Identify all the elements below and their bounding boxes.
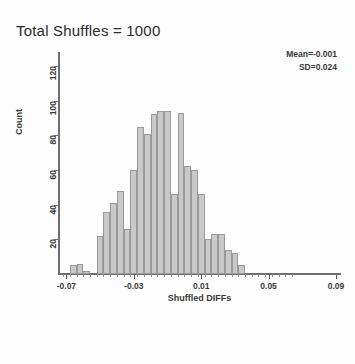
x-axis-minor-tick — [70, 274, 71, 277]
x-axis-minor-tick — [184, 274, 185, 277]
y-axis-tick-label: 60 — [48, 170, 58, 179]
x-axis-tick-label: -0.03 — [124, 281, 143, 291]
y-axis-tick-label: 80 — [48, 135, 58, 144]
histogram-bar — [164, 111, 171, 274]
histogram-bar — [124, 229, 131, 274]
x-axis-minor-tick — [205, 274, 206, 277]
x-axis-tick — [336, 274, 337, 279]
x-axis-minor-tick — [218, 274, 219, 277]
x-axis-tick — [269, 274, 270, 279]
x-axis-minor-tick — [130, 274, 131, 277]
histogram-bar — [110, 203, 117, 274]
x-axis-minor-tick — [279, 274, 280, 277]
x-axis-minor-tick — [198, 274, 199, 277]
histogram-bar — [117, 191, 124, 274]
x-axis-minor-tick — [83, 274, 84, 277]
histogram-bar — [205, 239, 212, 274]
histogram-figure: Total Shuffles = 1000 Mean=-0.001 SD=0.0… — [0, 0, 355, 364]
histogram-bar — [137, 127, 144, 274]
x-axis-minor-tick — [265, 274, 266, 277]
x-axis-minor-tick — [63, 274, 64, 277]
x-axis-minor-tick — [245, 274, 246, 277]
y-axis-title: Count — [14, 109, 24, 135]
x-axis-title: Shuffled DIFFs — [58, 293, 341, 303]
x-axis-minor-tick — [252, 274, 253, 277]
x-axis-minor-tick — [164, 274, 165, 277]
x-axis-tick-label: 0.09 — [328, 281, 345, 291]
x-axis-minor-tick — [97, 274, 98, 277]
x-axis-minor-tick — [211, 274, 212, 277]
y-axis-tick-label: 100 — [48, 101, 58, 115]
histogram-bar — [130, 170, 137, 274]
page-title: Total Shuffles = 1000 — [16, 22, 160, 39]
histogram-bar — [184, 166, 191, 274]
x-axis-minor-tick — [137, 274, 138, 277]
histogram-bar — [171, 194, 178, 274]
x-axis-minor-tick — [117, 274, 118, 277]
histogram-bar — [97, 236, 104, 274]
x-axis-tick-label: 0.01 — [193, 281, 210, 291]
histogram-bar — [225, 250, 232, 274]
histogram-bar — [198, 194, 205, 274]
x-axis-tick — [66, 274, 67, 279]
histogram-bar — [232, 253, 239, 274]
histogram-bar — [178, 113, 185, 274]
y-axis-tick-label: 20 — [48, 239, 58, 248]
x-axis-tick-label: 0.05 — [260, 281, 277, 291]
histogram-bar — [238, 265, 245, 274]
x-axis-minor-tick — [103, 274, 104, 277]
x-axis-minor-tick — [178, 274, 179, 277]
x-axis-tick-label: -0.07 — [57, 281, 76, 291]
plot-area: 20406080100120 -0.07-0.030.010.050.09 — [58, 52, 341, 274]
histogram-bar — [83, 271, 90, 274]
x-axis-minor-tick — [124, 274, 125, 277]
x-axis-minor-tick — [77, 274, 78, 277]
x-axis-minor-tick — [225, 274, 226, 277]
histogram-bar — [77, 264, 84, 274]
x-axis-minor-tick — [171, 274, 172, 277]
bar-series — [58, 52, 341, 274]
histogram-bar — [211, 234, 218, 274]
x-axis-minor-tick — [90, 274, 91, 277]
x-axis-minor-tick — [272, 274, 273, 277]
x-axis-tick — [201, 274, 202, 279]
histogram-bar — [218, 234, 225, 274]
x-axis-minor-tick — [191, 274, 192, 277]
x-axis-minor-tick — [157, 274, 158, 277]
histogram-bar — [70, 265, 77, 274]
x-axis-minor-tick — [285, 274, 286, 277]
y-axis-tick-label: 40 — [48, 205, 58, 214]
y-axis-tick-label: 120 — [48, 66, 58, 80]
x-axis-minor-tick — [232, 274, 233, 277]
x-axis-minor-tick — [292, 274, 293, 277]
x-axis-minor-tick — [110, 274, 111, 277]
x-axis-minor-tick — [238, 274, 239, 277]
x-axis-minor-tick — [144, 274, 145, 277]
histogram-bar — [144, 134, 151, 274]
histogram-bar — [157, 111, 164, 274]
x-axis-tick — [134, 274, 135, 279]
histogram-bar — [151, 114, 158, 274]
x-axis-minor-tick — [258, 274, 259, 277]
x-axis-minor-tick — [151, 274, 152, 277]
histogram-bar — [191, 170, 198, 274]
histogram-bar — [103, 212, 110, 274]
